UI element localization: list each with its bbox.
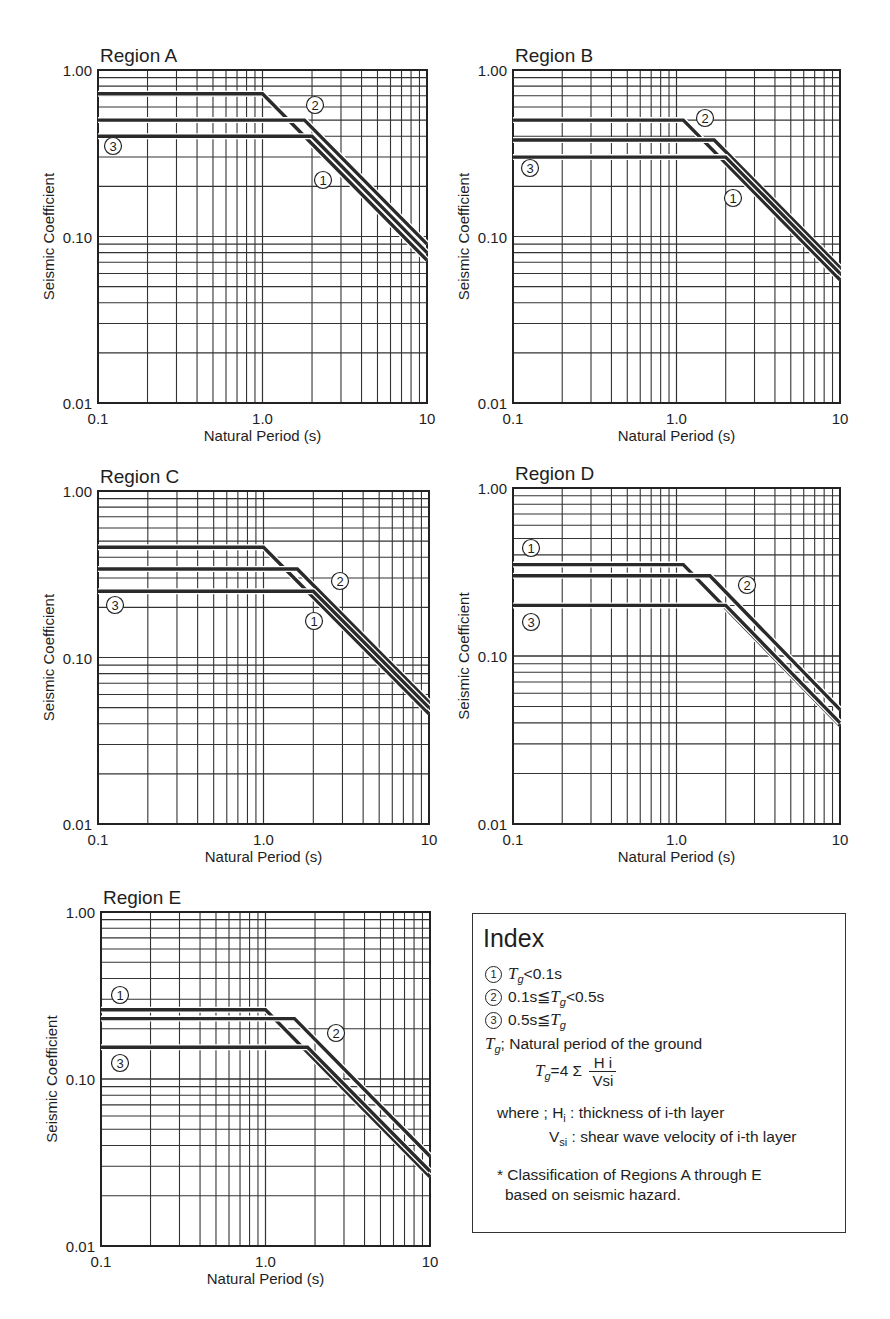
where-h-text: : thickness of i-th layer [570,1104,724,1121]
y-tick-label: 0.10 [63,229,92,246]
grid-lines [101,912,430,1246]
y-axis-label: Seismic Coefficient [40,172,57,300]
circled-3-marker: 3 [485,1012,502,1029]
chart-title: Region C [100,466,179,487]
tg-definition: Tg; Natural period of the ground [485,1034,702,1055]
x-axis-label: Natural Period (s) [207,1270,325,1287]
x-tick-label: 0.1 [91,1253,112,1270]
x-tick-label: 10 [422,1253,439,1270]
x-tick-label: 10 [832,410,849,427]
where-label: where ; H [497,1104,563,1121]
y-tick-label: 1.00 [66,904,95,921]
chart-title: Region D [515,463,594,484]
circled-label-text: 3 [109,139,116,154]
chart-title: Region A [100,45,177,66]
where-v-text: : shear wave velocity of i-th layer [572,1128,797,1145]
circled-label-text: 3 [116,1056,123,1071]
where-v-line: Vsi : shear wave velocity of i-th layer [549,1128,796,1148]
y-axis-label: Seismic Coefficient [455,592,472,720]
y-axis-label: Seismic Coefficient [43,1015,60,1143]
note-line-2: based on seismic hazard. [505,1186,681,1204]
x-axis-label: Natural Period (s) [205,848,323,865]
formula-denominator: Vsi [589,1072,616,1089]
chart-region-d: 123Region D1.000.100.010.11.010Natural P… [455,463,848,865]
circled-label-text: 1 [527,541,534,556]
circled-label-text: 3 [111,598,118,613]
x-tick-label: 1.0 [253,831,274,848]
index-item-2: 20.1s≦Tg<0.5s [485,987,604,1008]
x-tick-label: 0.1 [88,410,109,427]
circled-label-text: 1 [319,173,326,188]
circled-label-text: 2 [336,574,343,589]
y-tick-label: 0.10 [478,648,507,665]
x-axis-label: Natural Period (s) [618,848,736,865]
x-tick-label: 0.1 [503,410,524,427]
x-tick-label: 1.0 [666,831,687,848]
formula-numerator: H i [589,1054,616,1072]
x-axis-label: Natural Period (s) [618,427,736,444]
y-axis-label: Seismic Coefficient [455,172,472,300]
chart-title: Region E [103,887,181,908]
y-axis-label: Seismic Coefficient [40,593,57,721]
circled-label-text: 2 [332,1026,339,1041]
circled-label-text: 3 [527,615,534,630]
circled-2-marker: 2 [485,989,502,1006]
formula-lhs: =4 Σ [551,1062,583,1079]
chart-region-c: 123Region C1.000.100.010.11.010Natural P… [40,466,437,865]
x-tick-label: 0.1 [88,831,109,848]
formula-fraction: H i Vsi [589,1054,616,1089]
index-title: Index [483,924,544,953]
x-axis-label: Natural Period (s) [204,427,322,444]
chart-region-a: 123Region A1.000.100.010.11.010Natural P… [40,45,435,444]
chart-region-b: 123Region B1.000.100.010.11.010Natural P… [455,45,848,444]
circled-label-text: 1 [729,191,736,206]
y-tick-label: 1.00 [478,480,507,497]
circled-label-text: 1 [116,988,123,1003]
x-tick-label: 10 [419,410,436,427]
where-h-line: where ; Hi : thickness of i-th layer [497,1104,724,1124]
circled-label-text: 3 [526,161,533,176]
x-tick-label: 10 [421,831,438,848]
circled-label-text: 2 [701,111,708,126]
index-legend-box: Index 1Tg<0.1s 20.1s≦Tg<0.5s 30.5s≦Tg Tg… [472,913,846,1233]
circled-label-text: 2 [743,578,750,593]
x-tick-label: 1.0 [252,410,273,427]
x-tick-label: 10 [832,831,849,848]
chart-title: Region B [515,45,593,66]
chart-region-e: 123Region E1.000.100.010.11.010Natural P… [43,887,438,1287]
y-tick-label: 1.00 [478,62,507,79]
tg-definition-text: ; Natural period of the ground [501,1035,703,1052]
y-tick-label: 0.10 [63,650,92,667]
y-tick-label: 0.10 [66,1071,95,1088]
circled-label-text: 2 [311,98,318,113]
x-tick-label: 1.0 [666,410,687,427]
y-tick-label: 1.00 [63,62,92,79]
tg-formula: Tg=4 Σ H i Vsi [535,1054,616,1089]
index-item-1: 1Tg<0.1s [485,964,562,985]
note-line-1: * Classification of Regions A through E [497,1166,762,1184]
x-tick-label: 0.1 [503,831,524,848]
circled-label-text: 1 [310,614,317,629]
x-tick-label: 1.0 [255,1253,276,1270]
index-item-3: 30.5s≦Tg [485,1010,566,1031]
y-tick-label: 1.00 [63,483,92,500]
circled-1-marker: 1 [485,966,502,983]
y-tick-label: 0.10 [478,229,507,246]
